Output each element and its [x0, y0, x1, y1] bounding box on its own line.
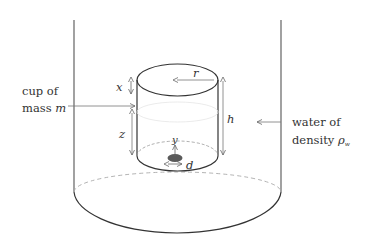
cup-label-line2: mass m	[22, 101, 66, 115]
label-z: z	[118, 127, 126, 141]
label-r: r	[193, 66, 200, 80]
inner-waterline	[137, 102, 218, 122]
label-d: d	[186, 158, 193, 172]
container-bottom-back-edge	[74, 172, 281, 192]
cup-label-text: mass	[22, 101, 55, 115]
label-y: y	[171, 134, 178, 145]
water-label-line1: water of	[292, 115, 341, 129]
water-density-sub: w	[345, 140, 351, 147]
label-x: x	[116, 80, 123, 94]
label-h: h	[227, 112, 234, 126]
water-container	[74, 20, 281, 233]
cup-mass-var: m	[55, 101, 66, 115]
water-label-text: density	[292, 133, 338, 147]
container-bottom-front-edge	[74, 192, 281, 233]
diagram-canvas: x r h z y d cup of mass m water of densi…	[0, 0, 366, 248]
cup-label-line1: cup of	[22, 84, 59, 98]
water-label-line2: density ρw	[292, 133, 351, 147]
